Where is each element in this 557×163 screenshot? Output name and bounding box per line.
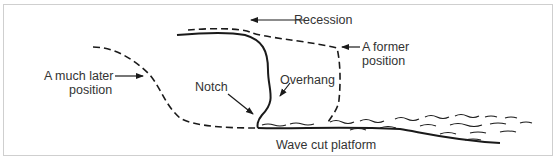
overhang-label: Overhang	[280, 73, 335, 87]
notch-arrow	[228, 94, 253, 114]
platform-label: Wave cut platform	[276, 138, 376, 152]
later-position-label-line2: position	[69, 83, 112, 97]
later-position-label-line1: A much later	[44, 69, 113, 83]
later-position-line	[93, 47, 258, 128]
notch-label: Notch	[195, 80, 228, 94]
former-position-label-line2: position	[362, 54, 405, 68]
recession-label: Recession	[294, 13, 352, 27]
former-position-label-line1: A former	[362, 40, 409, 54]
